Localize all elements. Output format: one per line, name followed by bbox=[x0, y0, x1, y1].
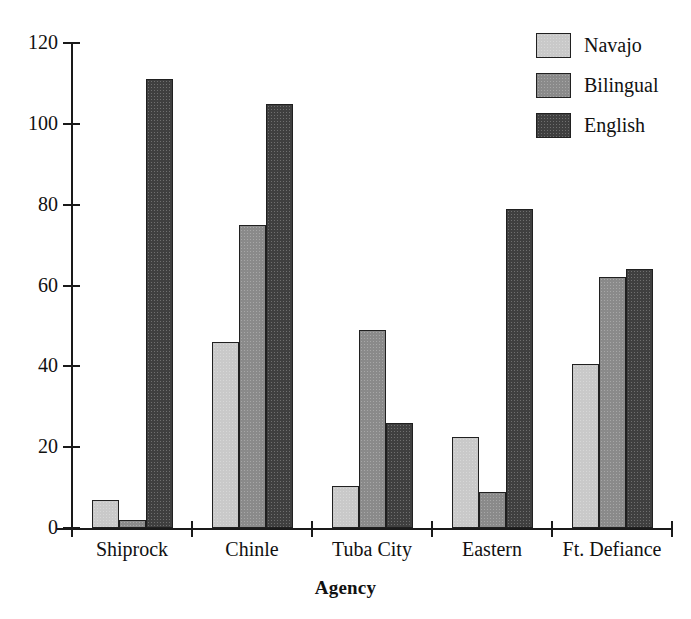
y-axis-tick-label: 20 bbox=[2, 436, 58, 456]
legend-swatch-navajo bbox=[536, 33, 571, 58]
y-axis-tick-label: 80 bbox=[2, 194, 58, 214]
x-axis-tick bbox=[191, 521, 193, 537]
y-axis-tick-label: 40 bbox=[2, 355, 58, 375]
legend-item-navajo: Navajo bbox=[536, 27, 686, 63]
x-axis-tick bbox=[311, 521, 313, 537]
bar-shiprock-bilingual bbox=[119, 520, 146, 528]
x-axis-title: Agency bbox=[0, 577, 691, 599]
y-axis-tick-label: 0 bbox=[2, 517, 58, 537]
y-axis-tick-label: 60 bbox=[2, 275, 58, 295]
bar-tuba-city-navajo bbox=[332, 486, 359, 528]
bar-shiprock-navajo bbox=[92, 500, 119, 528]
x-axis-label-ft-defiance: Ft. Defiance bbox=[532, 538, 691, 561]
legend-label-navajo: Navajo bbox=[584, 34, 642, 57]
bar-chart: 020406080100120 ShiprockChinleTuba CityE… bbox=[0, 0, 691, 619]
bar-chinle-english bbox=[266, 104, 293, 528]
x-axis-tick bbox=[431, 521, 433, 537]
bar-chinle-bilingual bbox=[239, 225, 266, 528]
bar-ft-defiance-bilingual bbox=[599, 277, 626, 528]
y-axis-tick-label: 100 bbox=[2, 113, 58, 133]
legend: NavajoBilingualEnglish bbox=[536, 27, 686, 147]
x-axis-tick bbox=[671, 521, 673, 537]
legend-swatch-english bbox=[536, 113, 571, 138]
x-axis-line bbox=[57, 528, 673, 530]
bar-tuba-city-english bbox=[386, 423, 413, 528]
x-axis-tick bbox=[71, 521, 73, 537]
legend-item-bilingual: Bilingual bbox=[536, 67, 686, 103]
legend-label-english: English bbox=[584, 114, 645, 137]
bar-ft-defiance-navajo bbox=[572, 364, 599, 528]
bar-chinle-navajo bbox=[212, 342, 239, 528]
bar-eastern-english bbox=[506, 209, 533, 528]
legend-label-bilingual: Bilingual bbox=[584, 74, 658, 97]
legend-swatch-bilingual bbox=[536, 73, 571, 98]
x-axis-tick bbox=[551, 521, 553, 537]
bar-eastern-bilingual bbox=[479, 492, 506, 528]
bar-eastern-navajo bbox=[452, 437, 479, 528]
legend-item-english: English bbox=[536, 107, 686, 143]
y-axis-tick-label: 120 bbox=[2, 32, 58, 52]
bar-shiprock-english bbox=[146, 79, 173, 528]
bar-ft-defiance-english bbox=[626, 269, 653, 528]
bar-tuba-city-bilingual bbox=[359, 330, 386, 528]
